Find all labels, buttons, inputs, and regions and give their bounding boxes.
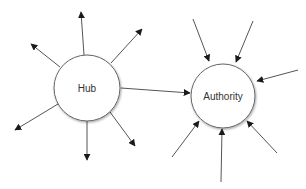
hub-outgoing-arrow: [31, 44, 60, 67]
hub-outgoing-arrow: [110, 112, 135, 146]
authority-incoming-arrow: [172, 121, 199, 157]
authority-label: Authority: [203, 91, 242, 102]
hub-authority-diagram: [0, 0, 306, 189]
hub-to-authority-arrow: [121, 88, 190, 93]
hub-outgoing-arrow: [111, 29, 142, 63]
authority-incoming-arrow: [236, 21, 253, 62]
authority-incoming-arrow: [221, 129, 222, 182]
authority-incoming-arrow: [257, 70, 298, 81]
hub-outgoing-arrow: [15, 104, 58, 130]
hub-outgoing-arrow: [81, 12, 84, 55]
authority-incoming-arrow: [247, 121, 277, 153]
authority-incoming-arrow: [193, 19, 209, 61]
hub-label: Hub: [78, 83, 96, 94]
